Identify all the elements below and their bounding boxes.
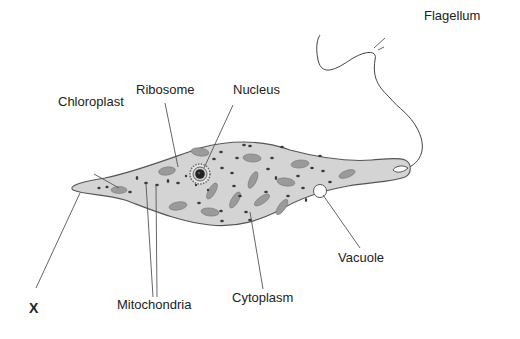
- vacuole: [314, 185, 327, 198]
- label-mitochondria: Mitochondria: [117, 297, 191, 312]
- label-x: X: [29, 300, 38, 316]
- euglena-diagram: Flagellum Ribosome Nucleus Chloroplast V…: [0, 0, 520, 339]
- label-chloroplast: Chloroplast: [58, 94, 124, 109]
- cell-body: [72, 142, 410, 225]
- label-ribosome: Ribosome: [136, 82, 195, 97]
- label-nucleus: Nucleus: [233, 82, 280, 97]
- cell-illustration: [0, 0, 520, 339]
- label-flagellum: Flagellum: [424, 8, 480, 23]
- nucleus-graphic: [190, 164, 210, 184]
- label-vacuole: Vacuole: [338, 250, 384, 265]
- flagellum: [317, 35, 423, 170]
- label-cytoplasm: Cytoplasm: [232, 290, 293, 305]
